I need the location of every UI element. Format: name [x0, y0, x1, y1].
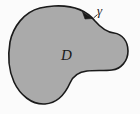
region-label-d: D	[61, 48, 72, 63]
curve-label-gamma: γ	[97, 4, 102, 17]
figure-canvas: D γ	[0, 0, 140, 114]
